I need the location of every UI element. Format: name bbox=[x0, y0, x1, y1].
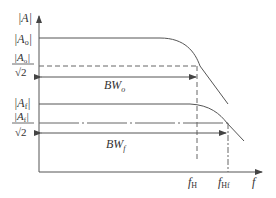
bw-open-loop-label: BWo bbox=[104, 78, 125, 94]
feedback-gain-label: |Af| bbox=[14, 96, 31, 111]
open-loop-gain-label: |Ao| bbox=[14, 32, 32, 47]
feedback-halfpower-den: √2 bbox=[15, 126, 27, 138]
open-loop-halfpower-num: |Ao| bbox=[14, 51, 30, 65]
diagram-svg: |A| |Ao| |Ao| √2 |Af| |Af| √2 BWo BWf fH… bbox=[0, 0, 276, 198]
feedback-halfpower-num: |Af| bbox=[14, 110, 29, 124]
fh-label: fH bbox=[188, 175, 197, 190]
y-axis-label: |A| bbox=[18, 11, 32, 25]
open-loop-curve bbox=[39, 38, 228, 104]
bw-feedback-label: BWf bbox=[106, 137, 127, 153]
fhf-label: fHf bbox=[218, 175, 230, 190]
x-axis-label: f bbox=[252, 175, 257, 189]
bandwidth-diagram: |A| |Ao| |Ao| √2 |Af| |Af| √2 BWo BWf fH… bbox=[0, 0, 276, 198]
open-loop-halfpower-den: √2 bbox=[15, 66, 27, 78]
